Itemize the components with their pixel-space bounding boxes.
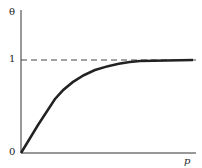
chart-canvas <box>0 0 202 168</box>
x-axis-label: p <box>184 155 190 166</box>
curve <box>21 60 193 153</box>
y-tick-0: 0 <box>9 146 15 157</box>
y-tick-1: 1 <box>9 53 15 64</box>
y-axis-label: θ <box>9 6 15 17</box>
